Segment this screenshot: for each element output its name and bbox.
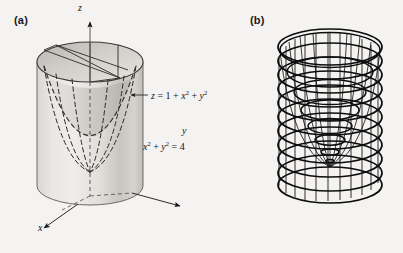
panel-b-graphic bbox=[0, 0, 403, 253]
panel-label-b: (b) bbox=[250, 14, 265, 26]
figure-root: (a) z = 1 + x2 + y2 x2 + y2 = 4 z y x bbox=[0, 0, 403, 253]
